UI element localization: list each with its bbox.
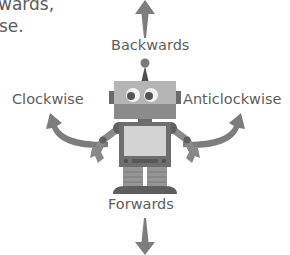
arrow-down-icon	[135, 218, 155, 255]
label-anticlockwise: Anticlockwise	[183, 91, 281, 107]
robot-illustration	[90, 59, 200, 195]
wrench-hand-left	[90, 146, 104, 163]
robot-chest-panel	[124, 126, 166, 156]
antenna	[142, 66, 149, 81]
arrow-up-icon	[135, 0, 155, 38]
label-clockwise: Clockwise	[12, 91, 84, 107]
robot-base	[113, 186, 177, 194]
curved-arrow-right-icon	[183, 113, 245, 148]
wrench-hand-right	[186, 146, 200, 163]
label-forwards: Forwards	[108, 196, 174, 212]
label-backwards: Backwards	[111, 37, 189, 53]
